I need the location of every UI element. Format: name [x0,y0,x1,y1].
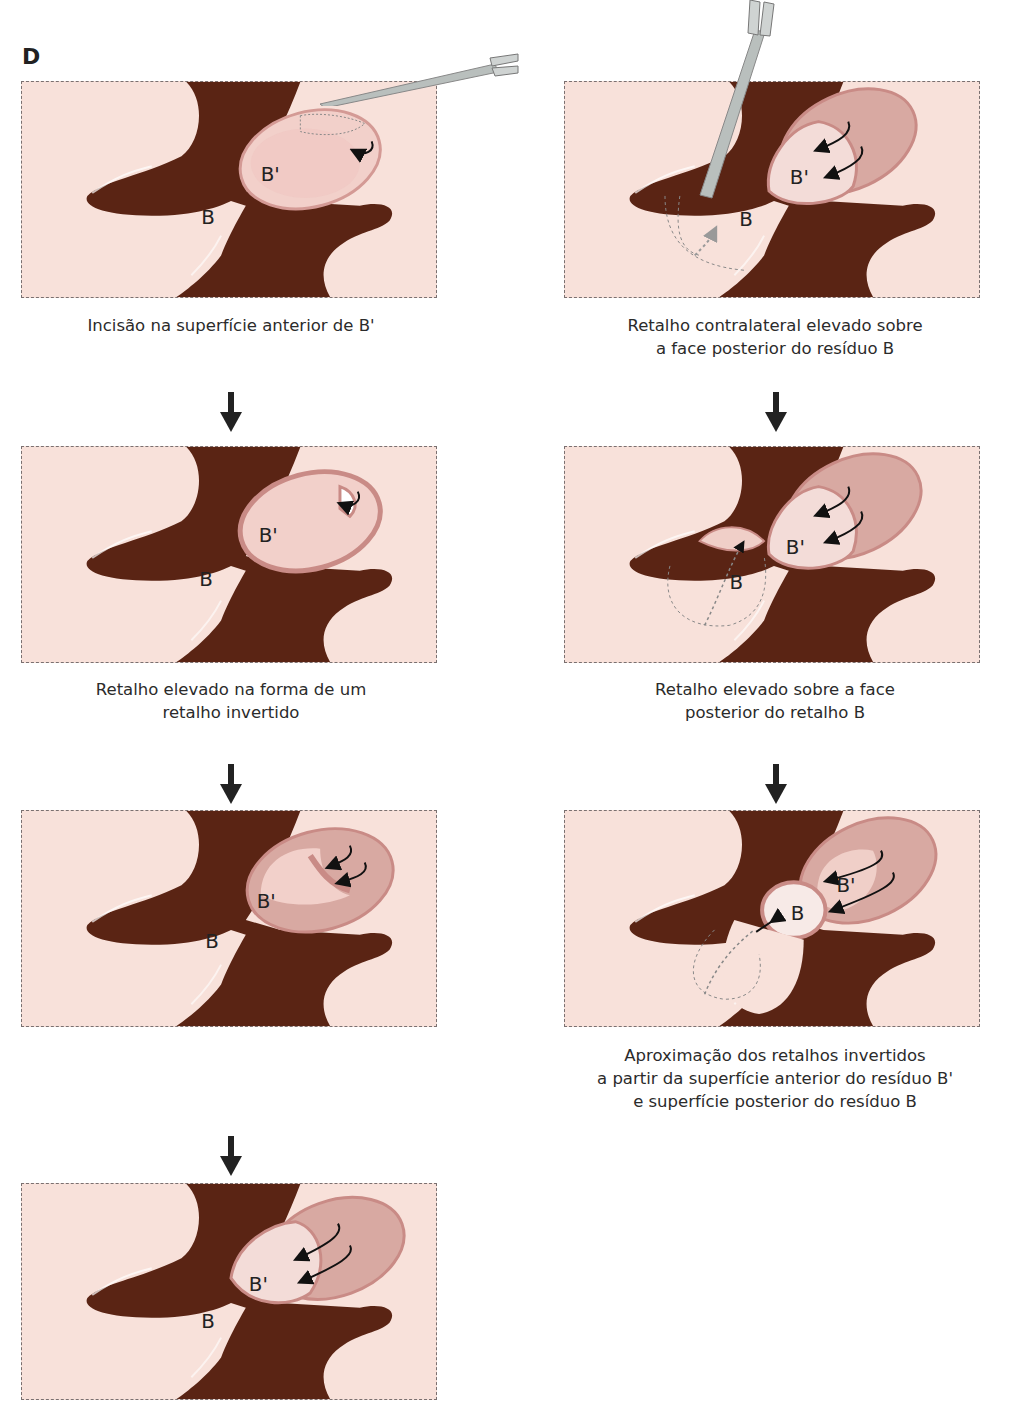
step-caption: Retalho elevado sobre a face posterior d… [560,678,990,724]
down-arrow-icon [219,1136,243,1176]
forceps-icon [320,46,520,106]
diagram-panel-left-4: B' B [21,1183,437,1400]
step-caption: Retalho contralateral elevado sobre a fa… [560,314,990,360]
diagram-panel-left-1: B' B [21,81,437,298]
svg-text:B: B [201,206,215,229]
diagram-panel-right-2: B' B [564,446,980,663]
svg-text:B': B' [786,536,805,559]
down-arrow-icon [219,764,243,804]
down-arrow-icon [764,392,788,432]
svg-text:B': B' [259,524,278,547]
diagram-panel-left-2: B' B [21,446,437,663]
step-caption: Incisão na superfície anterior de B' [21,314,441,337]
down-arrow-icon [764,764,788,804]
svg-text:B: B [201,1310,215,1333]
step-caption: Aproximação dos retalhos invertidos a pa… [560,1044,990,1113]
svg-text:B: B [199,568,213,591]
diagram-panel-right-3: B' B [564,810,980,1027]
diagram-panel-left-3: B' B [21,810,437,1027]
svg-text:B': B' [249,1273,268,1296]
svg-text:B': B' [257,890,276,913]
down-arrow-icon [219,392,243,432]
panel-label: D [22,44,40,69]
svg-text:B: B [729,571,743,594]
svg-text:B: B [739,208,753,231]
forceps-icon [690,0,800,200]
svg-text:B': B' [261,163,280,186]
svg-text:B': B' [836,874,855,897]
ear-cartilage-illustration: B' B [22,82,436,297]
svg-text:B: B [791,902,805,925]
step-caption: Retalho elevado na forma de um retalho i… [21,678,441,724]
svg-text:B: B [205,930,219,953]
